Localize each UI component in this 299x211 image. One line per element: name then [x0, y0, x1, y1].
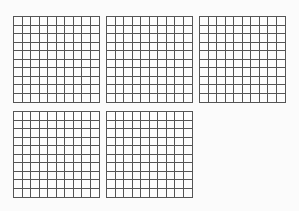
- grid-cell: [124, 172, 133, 181]
- grid-cell: [277, 26, 286, 35]
- grid-cell: [158, 43, 167, 52]
- grid-cell: [48, 43, 57, 52]
- grid-cell: [14, 155, 23, 164]
- grid-cell: [260, 43, 269, 52]
- grid-cell: [268, 17, 277, 26]
- grid-cell: [175, 155, 184, 164]
- grid-cell: [65, 26, 74, 35]
- grid-cell: [133, 68, 142, 77]
- grid-cell: [251, 26, 260, 35]
- grid-cell: [31, 138, 40, 147]
- grid-cell: [217, 68, 226, 77]
- grid-cell: [107, 17, 116, 26]
- grid-cell: [82, 163, 91, 172]
- grid-cell: [200, 85, 209, 94]
- grid-cell: [116, 146, 125, 155]
- grid-cell: [82, 17, 91, 26]
- grid-cell: [82, 172, 91, 181]
- grid-cell: [150, 163, 159, 172]
- grid-cell: [57, 85, 66, 94]
- grid-cell: [141, 163, 150, 172]
- grid-cell: [167, 26, 176, 35]
- grid-cell: [175, 112, 184, 121]
- grid-cell: [133, 60, 142, 69]
- grid-cell: [65, 17, 74, 26]
- grid-cell: [277, 68, 286, 77]
- grid-cell: [107, 77, 116, 86]
- grid-cell: [243, 26, 252, 35]
- grid-cell: [251, 43, 260, 52]
- grid-cell: [107, 26, 116, 35]
- grid-cell: [268, 26, 277, 35]
- grid-cell: [82, 180, 91, 189]
- grid-cell: [23, 172, 32, 181]
- grid-cell: [150, 129, 159, 138]
- grid-cell: [133, 163, 142, 172]
- grid-cell: [91, 17, 100, 26]
- grid-cell: [65, 163, 74, 172]
- grid-cell: [23, 94, 32, 103]
- grid-cell: [251, 85, 260, 94]
- grid-cell: [268, 34, 277, 43]
- grid-cell: [74, 17, 83, 26]
- grid-cell: [82, 77, 91, 86]
- grid-cell: [217, 85, 226, 94]
- grid-cell: [217, 77, 226, 86]
- grid-cell: [82, 51, 91, 60]
- grid-cell: [175, 146, 184, 155]
- grid-cell: [251, 94, 260, 103]
- grid-cell: [141, 180, 150, 189]
- grid-cell: [57, 68, 66, 77]
- grid-cell: [65, 189, 74, 198]
- grid-cell: [23, 26, 32, 35]
- grid-cell: [23, 189, 32, 198]
- grid-cell: [226, 77, 235, 86]
- grid-cell: [184, 189, 193, 198]
- grid-cell: [31, 60, 40, 69]
- grid-cell: [57, 34, 66, 43]
- grid-cell: [226, 43, 235, 52]
- grid-cell: [82, 68, 91, 77]
- grid-cell: [74, 172, 83, 181]
- grid-cell: [184, 163, 193, 172]
- grid-cell: [14, 129, 23, 138]
- grid-cell: [82, 43, 91, 52]
- grid-cell: [31, 180, 40, 189]
- grid-cell: [124, 129, 133, 138]
- grid-cell: [14, 77, 23, 86]
- grid-cell: [200, 34, 209, 43]
- hundred-grid: [13, 16, 100, 103]
- grid-cell: [167, 34, 176, 43]
- grid-cell: [40, 112, 49, 121]
- grid-cell: [260, 68, 269, 77]
- grid-cell: [107, 68, 116, 77]
- grid-cell: [260, 34, 269, 43]
- grid-cell: [226, 51, 235, 60]
- grid-cell: [107, 138, 116, 147]
- grid-cell: [40, 17, 49, 26]
- grid-cell: [234, 68, 243, 77]
- grid-cell: [184, 180, 193, 189]
- grid-cell: [82, 112, 91, 121]
- grid-cell: [167, 163, 176, 172]
- grid-cell: [57, 138, 66, 147]
- grid-cell: [74, 138, 83, 147]
- grid-cell: [74, 146, 83, 155]
- grid-cell: [57, 51, 66, 60]
- grid-cell: [31, 146, 40, 155]
- grid-cell: [184, 94, 193, 103]
- grid-cell: [184, 17, 193, 26]
- grid-cell: [150, 68, 159, 77]
- grid-cell: [31, 112, 40, 121]
- grid-cell: [116, 121, 125, 130]
- grid-cell: [57, 60, 66, 69]
- grid-cell: [107, 155, 116, 164]
- grid-cell: [40, 26, 49, 35]
- grid-cell: [23, 155, 32, 164]
- grid-cell: [141, 129, 150, 138]
- grid-cell: [217, 34, 226, 43]
- grid-cell: [82, 155, 91, 164]
- grid-cell: [40, 172, 49, 181]
- grid-cell: [251, 51, 260, 60]
- grid-cell: [74, 85, 83, 94]
